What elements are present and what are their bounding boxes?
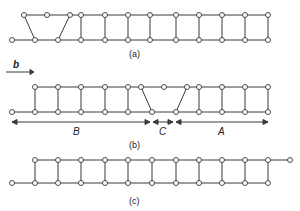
region-b-label: B (73, 126, 80, 137)
direction-arrow (6, 70, 34, 75)
region-arrows (12, 120, 268, 125)
panel-a-label: (a) (129, 49, 140, 59)
panel-c-ladder (12, 160, 290, 183)
region-a-label: A (218, 126, 225, 137)
direction-b-label: b (13, 59, 19, 70)
diagram-svg (0, 0, 300, 211)
ladder-diagram: (a) b B C A (b) (c) (0, 0, 300, 211)
panel-b-ladder (12, 87, 268, 112)
panel-c-label: (c) (129, 196, 140, 206)
panel-a-ladder (12, 15, 268, 40)
region-c-label: C (159, 126, 166, 137)
panel-b-label: (b) (129, 140, 140, 150)
